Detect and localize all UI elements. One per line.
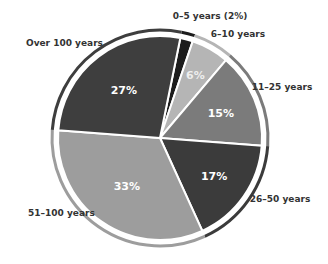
- category-label: 26–50 years: [250, 194, 311, 204]
- pie-chart: 6%15%17%33%27% 0–5 years (2%)6–10 years1…: [0, 0, 328, 264]
- category-label: 51–100 years: [28, 208, 95, 218]
- percent-label: 15%: [208, 107, 234, 120]
- category-label: Over 100 years: [26, 38, 103, 48]
- percent-label: 27%: [111, 84, 137, 97]
- category-label: 11–25 years: [252, 82, 313, 92]
- category-label: 0–5 years (2%): [173, 11, 248, 21]
- percent-label: 6%: [186, 69, 205, 82]
- percent-label: 17%: [201, 170, 227, 183]
- category-label: 6–10 years: [211, 29, 265, 39]
- percent-label: 33%: [114, 180, 140, 193]
- ring-segment: [182, 32, 195, 36]
